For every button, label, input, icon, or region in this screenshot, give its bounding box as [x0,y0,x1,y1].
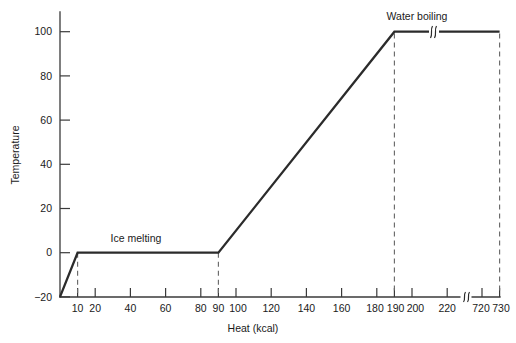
y-tick-label-minus20: −20 [34,291,52,303]
x-tick-label-90: 90 [213,302,225,314]
x-tick-label-40: 40 [125,302,137,314]
x-tick-label-100: 100 [229,302,247,314]
y-tick-label-40: 40 [40,158,52,170]
x-axis-title: Heat (kcal) [228,322,279,334]
x-tick-label-80: 80 [195,302,207,314]
x-tick-label-220: 220 [438,302,456,314]
x-tick-label-140: 140 [298,302,316,314]
curve-break-symbol [429,26,439,38]
y-axis-title: Temperature [9,125,21,184]
x-tick-label-200: 200 [407,302,425,314]
x-tick-label-730: 730 [492,302,510,314]
x-tick-label-60: 60 [160,302,172,314]
y-tick-label-0: 0 [46,246,52,258]
x-tick-label-120: 120 [262,302,280,314]
y-axis-tick-labels: 100 80 60 40 20 0 −20 [34,25,52,302]
y-tick-label-80: 80 [40,70,52,82]
heating-curve-line [60,32,500,297]
x-axis-break-symbol [461,292,472,302]
y-tick-label-20: 20 [40,202,52,214]
annotation-ice-melting: Ice melting [111,232,162,244]
x-axis-tick-labels: 10 20 40 60 80 90 100 120 140 160 180 19… [72,302,510,314]
x-tick-label-160: 160 [333,302,351,314]
y-tick-label-100: 100 [34,25,52,37]
annotation-water-boiling: Water boiling [387,10,448,22]
y-axis-ticks [60,32,70,297]
x-tick-label-190: 190 [387,302,405,314]
x-tick-label-720: 720 [472,302,490,314]
heating-curve-figure: 100 80 60 40 20 0 −20 [0,0,516,343]
axes-group [60,12,500,297]
x-tick-label-20: 20 [89,302,101,314]
y-tick-label-60: 60 [40,114,52,126]
x-axis-ticks [78,288,500,297]
chart-canvas: 100 80 60 40 20 0 −20 [0,0,516,343]
x-tick-label-10: 10 [72,302,84,314]
x-tick-label-180: 180 [366,302,384,314]
